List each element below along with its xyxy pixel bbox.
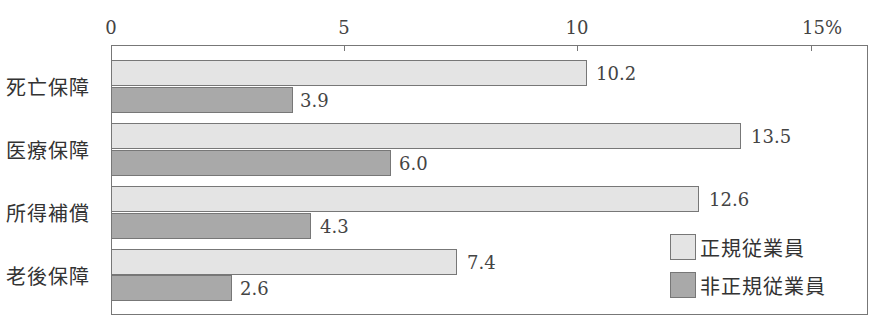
x-tick-15 bbox=[811, 45, 812, 51]
category-label: 所得補償 bbox=[6, 198, 90, 227]
legend: 正規従業員 非正規従業員 bbox=[670, 228, 826, 304]
bar-chart: 0 5 10 15% 死亡保障 医療保障 所得補償 老後保障 10.2 3.9 … bbox=[0, 0, 873, 324]
legend-label: 正規従業員 bbox=[700, 233, 805, 262]
bar-regular-retirement bbox=[111, 249, 457, 275]
bar-regular-income bbox=[111, 186, 699, 212]
legend-swatch-regular bbox=[670, 234, 696, 260]
value-label: 2.6 bbox=[240, 278, 269, 299]
x-tick-10 bbox=[577, 45, 578, 51]
legend-item-regular: 正規従業員 bbox=[670, 228, 826, 266]
bar-nonregular-income bbox=[111, 213, 311, 239]
value-label: 12.6 bbox=[709, 189, 749, 210]
bar-nonregular-retirement bbox=[111, 275, 232, 301]
bar-nonregular-death bbox=[111, 87, 293, 113]
value-label: 7.4 bbox=[467, 252, 496, 273]
legend-swatch-nonregular bbox=[670, 272, 696, 298]
x-tick-5 bbox=[344, 45, 345, 51]
legend-label: 非正規従業員 bbox=[700, 271, 826, 300]
bar-regular-death bbox=[111, 60, 587, 86]
bar-nonregular-medical bbox=[111, 150, 391, 176]
category-label: 死亡保障 bbox=[6, 72, 90, 101]
x-tick-label-5: 5 bbox=[338, 17, 349, 38]
bar-regular-medical bbox=[111, 123, 741, 149]
value-label: 13.5 bbox=[751, 126, 791, 147]
x-tick-label-15: 15% bbox=[802, 17, 842, 38]
x-tick-label-0: 0 bbox=[105, 17, 116, 38]
value-label: 4.3 bbox=[320, 216, 349, 237]
x-tick-label-10: 10 bbox=[566, 17, 589, 38]
legend-item-nonregular: 非正規従業員 bbox=[670, 266, 826, 304]
category-label: 老後保障 bbox=[6, 261, 90, 290]
value-label: 3.9 bbox=[300, 90, 329, 111]
category-label: 医療保障 bbox=[6, 135, 90, 164]
value-label: 6.0 bbox=[399, 153, 428, 174]
value-label: 10.2 bbox=[596, 63, 636, 84]
